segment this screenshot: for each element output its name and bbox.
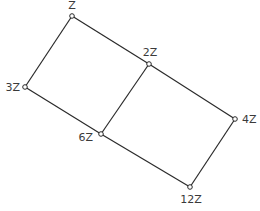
node-2Z <box>147 62 152 67</box>
subgroup-lattice-diagram: Z2Z3Z4Z6Z12Z <box>0 0 260 211</box>
node-4Z <box>233 117 238 122</box>
node-label-4Z: 4Z <box>242 113 257 126</box>
lattice-edges <box>25 16 235 187</box>
edge-3Z-6Z <box>25 87 101 134</box>
node-Z <box>70 14 75 19</box>
node-6Z <box>99 132 104 137</box>
node-label-2Z: 2Z <box>143 46 158 59</box>
lattice-labels: Z2Z3Z4Z6Z12Z <box>5 0 257 206</box>
edge-4Z-12Z <box>190 119 235 187</box>
node-label-6Z: 6Z <box>78 131 93 144</box>
edge-Z-2Z <box>72 16 149 64</box>
edge-6Z-12Z <box>101 134 190 187</box>
edge-2Z-6Z <box>101 64 149 134</box>
lattice-nodes <box>23 14 238 190</box>
node-label-12Z: 12Z <box>180 193 202 206</box>
node-12Z <box>188 185 193 190</box>
edge-Z-3Z <box>25 16 72 87</box>
node-label-Z: Z <box>68 0 76 12</box>
node-label-3Z: 3Z <box>5 81 20 94</box>
node-3Z <box>23 85 28 90</box>
edge-2Z-4Z <box>149 64 235 119</box>
